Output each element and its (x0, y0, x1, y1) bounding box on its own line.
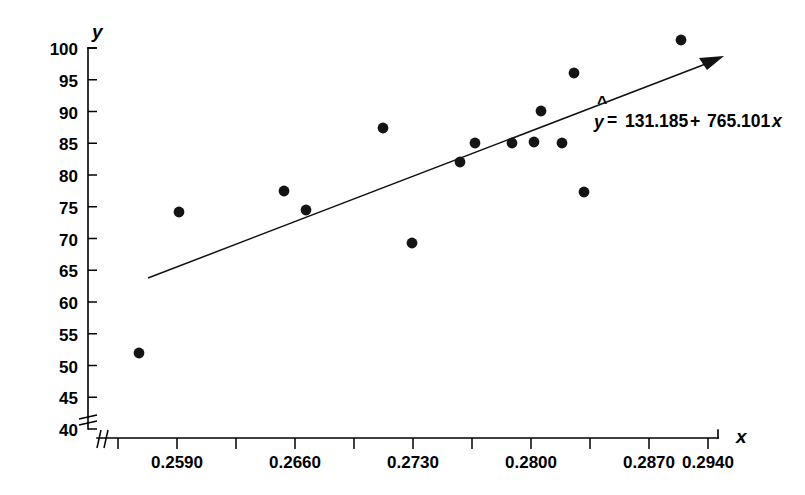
x-axis-tick-labels: 0.2590 0.2660 0.2730 0.2800 0.2870 0.294… (151, 453, 734, 472)
equation-equals-sign: = (607, 110, 617, 130)
equation-x-symbol: x (771, 111, 783, 131)
y-tick-label: 55 (59, 326, 78, 345)
y-axis-label: y (91, 21, 104, 42)
y-axis (79, 48, 97, 429)
data-point (301, 205, 312, 216)
data-point (407, 238, 418, 249)
data-point (557, 138, 568, 149)
y-tick-label: 75 (59, 199, 78, 218)
y-axis-tick-labels: 100 95 90 85 80 75 70 65 60 55 50 45 40 (50, 40, 78, 440)
x-tick-label: 0.2800 (505, 453, 557, 472)
x-axis-label: x (735, 426, 748, 447)
regression-line (148, 60, 716, 278)
x-tick-label: 0.2870 (623, 453, 675, 472)
data-point (529, 137, 540, 148)
equation-intercept-value: 131.185 (625, 111, 689, 131)
y-tick-label: 60 (59, 294, 78, 313)
y-tick-label: 95 (59, 72, 78, 91)
x-axis-break-mark (97, 430, 108, 448)
regression-line-arrowhead (699, 56, 724, 70)
equation-slope-value: 765.101 (707, 111, 771, 131)
data-point (134, 348, 145, 359)
x-axis (97, 430, 718, 449)
y-tick-label: 70 (59, 231, 78, 250)
x-tick-label: 0.2940 (682, 453, 734, 472)
regression-equation-annotation: ^ y = 131.185 + 765.101 x (593, 93, 783, 132)
scatter-plot-figure: 100 95 90 85 80 75 70 65 60 55 50 45 40 … (0, 0, 805, 495)
y-axis-ticks (88, 48, 97, 429)
data-point (455, 157, 466, 168)
data-point (378, 123, 389, 134)
data-point (569, 68, 580, 79)
data-point (676, 35, 687, 46)
y-tick-label: 65 (59, 262, 78, 281)
equation-y-symbol: y (593, 112, 605, 132)
equation-plus-sign: + (690, 111, 700, 131)
x-tick-label: 0.2730 (387, 453, 439, 472)
x-tick-label: 0.2590 (151, 453, 203, 472)
y-tick-label: 85 (59, 135, 78, 154)
x-tick-label: 0.2660 (269, 453, 321, 472)
y-tick-label: 50 (59, 358, 78, 377)
data-point (507, 138, 518, 149)
y-tick-label: 45 (59, 389, 78, 408)
data-point (579, 187, 590, 198)
plot-canvas: 100 95 90 85 80 75 70 65 60 55 50 45 40 … (0, 0, 805, 495)
data-points-group (134, 35, 687, 359)
data-point (470, 138, 481, 149)
data-point (174, 207, 185, 218)
y-tick-label: 80 (59, 167, 78, 186)
data-point (279, 186, 290, 197)
data-point (536, 106, 547, 117)
y-tick-label: 90 (59, 104, 78, 123)
y-tick-label: 100 (50, 40, 78, 59)
x-axis-ticks (118, 438, 708, 449)
equation-hat-symbol: ^ (597, 93, 607, 113)
y-tick-label: 40 (59, 421, 78, 440)
regression-line-group (148, 56, 724, 278)
